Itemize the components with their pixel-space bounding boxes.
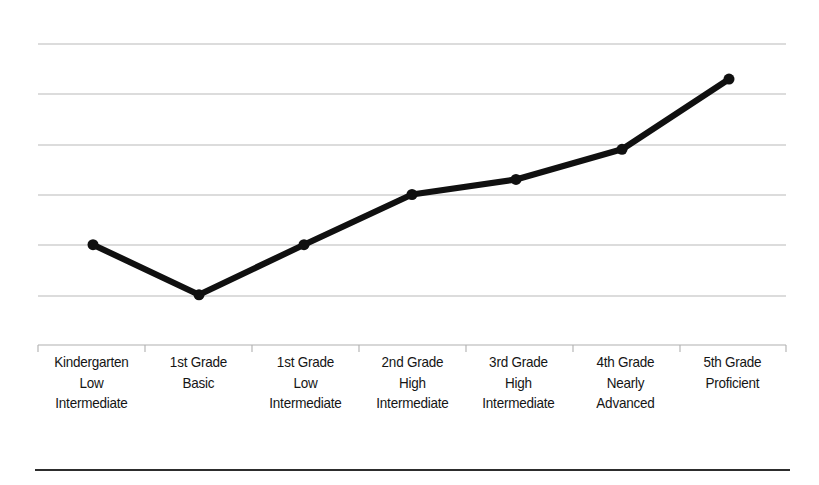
category-label-line: High xyxy=(362,373,461,394)
data-point-marker xyxy=(299,239,310,250)
category-label-line: Nearly xyxy=(576,373,675,394)
bottom-horizontal-rule xyxy=(35,469,790,471)
category-label-line: 1st Grade xyxy=(255,352,354,373)
category-label-1st-grade-low-intermediate: 1st Grade Low Intermediate xyxy=(255,352,354,414)
category-label-line: Kindergarten xyxy=(42,352,141,373)
category-label-1st-grade-basic: 1st Grade Basic xyxy=(149,352,248,393)
category-label-4th-grade-nearly-advanced: 4th Grade Nearly Advanced xyxy=(576,352,675,414)
category-label-line: High xyxy=(469,373,568,394)
category-label-line: Advanced xyxy=(576,393,675,414)
data-series-line xyxy=(93,79,729,295)
category-label-3rd-grade-high-intermediate: 3rd Grade High Intermediate xyxy=(469,352,568,414)
category-label-line: Low xyxy=(42,373,141,394)
category-label-line: Basic xyxy=(149,373,248,394)
category-label-5th-grade-proficient: 5th Grade Proficient xyxy=(683,352,782,393)
category-label-kindergarten: Kindergarten Low Intermediate xyxy=(42,352,141,414)
category-label-line: 3rd Grade xyxy=(469,352,568,373)
x-axis-ticks xyxy=(38,345,786,352)
category-label-line: Proficient xyxy=(683,373,782,394)
gridlines xyxy=(38,44,786,296)
data-point-marker xyxy=(617,144,628,155)
category-label-line: 1st Grade xyxy=(149,352,248,373)
category-label-line: Intermediate xyxy=(362,393,461,414)
data-point-marker xyxy=(511,174,522,185)
data-point-marker xyxy=(88,239,99,250)
data-point-marker xyxy=(194,289,205,300)
category-label-line: Intermediate xyxy=(255,393,354,414)
category-label-line: 4th Grade xyxy=(576,352,675,373)
category-label-line: 5th Grade xyxy=(683,352,782,373)
data-point-markers xyxy=(88,74,735,301)
category-label-line: Low xyxy=(255,373,354,394)
data-point-marker xyxy=(407,189,418,200)
data-point-marker xyxy=(724,74,735,85)
chart-figure: Kindergarten Low Intermediate 1st Grade … xyxy=(0,0,819,485)
category-label-line: Intermediate xyxy=(42,393,141,414)
chart-page: Kindergarten Low Intermediate 1st Grade … xyxy=(0,0,819,485)
category-label-line: Intermediate xyxy=(469,393,568,414)
category-label-line: 2nd Grade xyxy=(362,352,461,373)
category-label-2nd-grade-high-intermediate: 2nd Grade High Intermediate xyxy=(362,352,461,414)
x-axis-category-labels: Kindergarten Low Intermediate 1st Grade … xyxy=(38,352,786,432)
